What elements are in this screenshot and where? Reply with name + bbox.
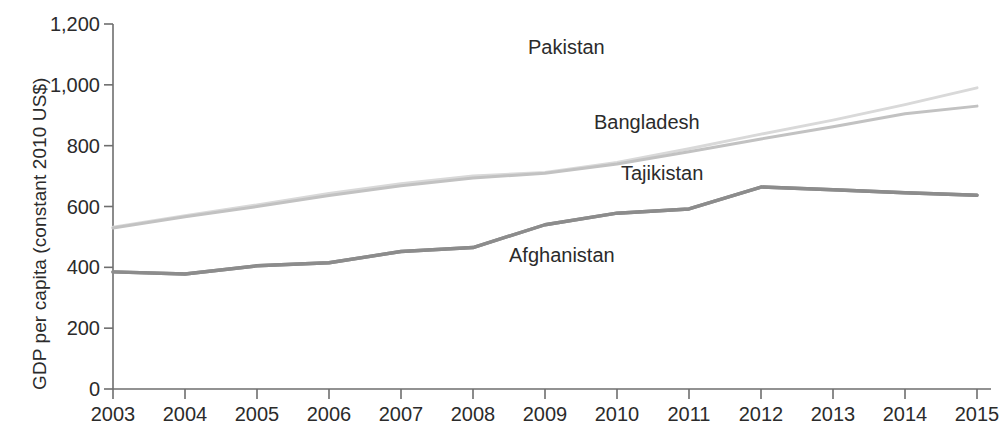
series-label-tajikistan: Tajikistan [621, 162, 703, 184]
series-label-bangladesh: Bangladesh [594, 111, 700, 133]
gdp-per-capita-line-chart: GDP per capita (constant 2010 US$) 02004… [0, 0, 1004, 426]
series-line-pakistan [113, 88, 977, 227]
y-tick-label: 200 [8, 318, 100, 338]
y-tick-label: 0 [8, 379, 100, 399]
y-tick-label: 1,000 [8, 75, 100, 95]
chart-plot-area [0, 0, 1004, 426]
series-line-bangladesh [113, 106, 977, 228]
chart-axes [104, 24, 991, 399]
y-tick-label: 400 [8, 257, 100, 277]
series-label-pakistan: Pakistan [528, 36, 605, 58]
x-tick-label: 2015 [932, 403, 1004, 425]
y-tick-label: 600 [8, 197, 100, 217]
y-tick-label: 800 [8, 136, 100, 156]
series-label-afghanistan: Afghanistan [509, 244, 615, 266]
y-tick-label: 1,200 [8, 14, 100, 34]
